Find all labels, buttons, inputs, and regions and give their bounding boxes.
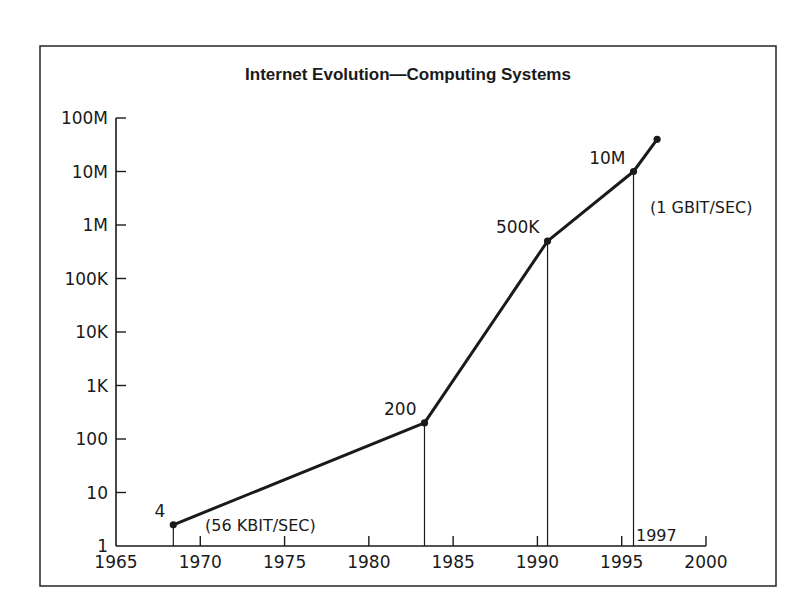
data-point-marker [421,419,428,426]
data-point-label: 4 [154,501,165,521]
data-point-label: 500K [496,217,540,237]
data-point-marker [630,168,637,175]
y-tick-label: 10K [75,322,109,342]
data-point-label: 200 [384,399,416,419]
annotations: (56 KBIT/SEC)(1 GBIT/SEC)1997 [205,198,752,545]
data-point-marker [654,136,661,143]
y-tick-label: 10 [86,483,108,503]
chart: Internet Evolution—Computing Systems 110… [0,0,808,615]
x-tick-label: 1980 [347,552,390,572]
annotation-56-kbit: (56 KBIT/SEC) [205,516,316,535]
x-tick-label: 1970 [179,552,222,572]
chart-title: Internet Evolution—Computing Systems [245,65,571,84]
y-tick-label: 100M [61,108,108,128]
x-tick-label: 1990 [516,552,559,572]
chart-frame [40,46,776,586]
data-point-marker [170,521,177,528]
x-tick-label: 1975 [263,552,306,572]
x-tick-label: 1965 [94,552,137,572]
y-tick-label: 100 [76,429,108,449]
x-tick-label: 1995 [600,552,643,572]
series-line [173,139,657,525]
annotation-1997: 1997 [636,526,677,545]
data-series: 4200500K10M [154,136,660,546]
annotation-1-gbit: (1 GBIT/SEC) [650,198,752,217]
data-point-marker [544,238,551,245]
y-tick-label: 100K [64,269,108,289]
y-tick-label: 1M [83,215,108,235]
data-point-label: 10M [589,148,625,168]
y-tick-label: 1K [86,376,109,396]
x-tick-label: 1985 [432,552,475,572]
x-tick-label: 2000 [684,552,727,572]
y-tick-label: 10M [72,162,108,182]
